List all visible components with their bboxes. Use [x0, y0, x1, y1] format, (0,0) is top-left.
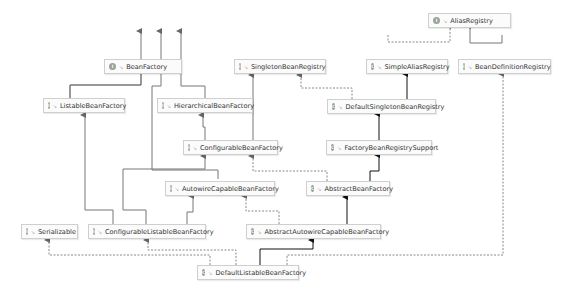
node-defaultlistablebeanfactory[interactable]: C ↘ DefaultListableBeanFactory: [197, 265, 299, 280]
interface-icon: I: [26, 228, 28, 235]
class-icon: C: [371, 63, 374, 70]
node-label: AbstractAutowireCapableBeanFactory: [265, 228, 390, 236]
edge-defaultlistable-abstractautowire: [260, 240, 313, 265]
node-label: HierarchicalBeanFactory: [174, 102, 254, 110]
node-aliasregistry[interactable]: I ↘ AliasRegistry: [428, 13, 511, 28]
class-diagram-canvas: I ↘ AliasRegistry I ↘ BeanFactory I ↘ Si…: [0, 0, 567, 302]
node-simplealiasregistry[interactable]: C ↘ SimpleAliasRegistry: [366, 59, 448, 74]
visibility-icon: ↘: [257, 229, 261, 235]
class-icon: C: [202, 269, 205, 276]
interface-icon: I: [239, 63, 241, 70]
node-beanfactory[interactable]: I ↘ BeanFactory: [104, 59, 182, 74]
node-label: BeanDefinitionRegistry: [475, 63, 551, 71]
node-listablebeanfactory[interactable]: I ↘ ListableBeanFactory: [43, 98, 125, 113]
visibility-icon: ↘: [443, 18, 447, 24]
node-label: SimpleAliasRegistry: [385, 63, 450, 71]
node-configurablelistablebeanfactory[interactable]: I ↘ ConfigurableListableBeanFactory: [88, 224, 206, 239]
node-label: AutowireCapableBeanFactory: [182, 185, 279, 193]
edge-defaultlistable-serializable: [49, 240, 210, 265]
interface-icon: I: [162, 102, 164, 109]
visibility-icon: ↘: [317, 186, 321, 192]
interface-icon: I: [188, 144, 190, 151]
node-label: ConfigurableBeanFactory: [200, 144, 283, 152]
edge-defaultsingleton-singleton: [301, 75, 352, 99]
visibility-icon: ↘: [244, 64, 248, 70]
visibility-icon: ↘: [193, 145, 197, 151]
node-defaultsingletonbeanregistry[interactable]: C ↘ DefaultSingletonBeanRegistry: [327, 99, 436, 114]
visibility-icon: ↘: [208, 270, 212, 276]
edge-beandefinitionregistry-aliasregistry: [470, 26, 502, 43]
node-label: DefaultSingletonBeanRegistry: [346, 103, 445, 111]
interface-icon: I: [433, 17, 440, 24]
visibility-icon: ↘: [338, 104, 342, 110]
node-label: Serializable: [38, 228, 76, 236]
node-label: SingletonBeanRegistry: [251, 63, 326, 71]
visibility-icon: ↘: [31, 229, 35, 235]
edge-abstractautowire-autowire: [246, 196, 279, 224]
node-label: FactoryBeanRegistrySupport: [345, 144, 439, 152]
class-icon: C: [251, 228, 254, 235]
visibility-icon: ↘: [119, 64, 123, 70]
visibility-icon: ↘: [53, 103, 57, 109]
class-icon: C: [311, 185, 314, 192]
interface-icon: I: [170, 185, 172, 192]
node-configurablebeanfactory[interactable]: I ↘ ConfigurableBeanFactory: [183, 140, 278, 155]
visibility-icon: ↘: [167, 103, 171, 109]
node-serializable[interactable]: I ↘ Serializable: [21, 224, 78, 239]
class-icon: C: [332, 103, 335, 110]
node-label: ConfigurableListableBeanFactory: [105, 228, 214, 236]
node-abstractautowirecapablebeanfactory[interactable]: C ↘ AbstractAutowireCapableBeanFactory: [246, 224, 381, 239]
node-abstractbeanfactory[interactable]: C ↘ AbstractBeanFactory: [306, 181, 390, 196]
interface-icon: I: [109, 63, 116, 70]
visibility-icon: ↘: [98, 229, 102, 235]
node-label: ListableBeanFactory: [60, 102, 127, 110]
interface-icon: I: [463, 63, 465, 70]
visibility-icon: ↘: [175, 186, 179, 192]
edge-configlistable-listable: [85, 115, 113, 224]
visibility-icon: ↘: [377, 64, 381, 70]
edge-configurable-hierarchical: [203, 115, 205, 140]
class-icon: C: [331, 144, 334, 151]
edge-abstractbf-factorybean: [370, 155, 379, 181]
edge-simplealiasregistry-aliasregistry: [388, 26, 450, 42]
node-beandefinitionregistry[interactable]: I ↘ BeanDefinitionRegistry: [458, 59, 551, 74]
inheritance-edges: [0, 0, 567, 302]
visibility-icon: ↘: [468, 64, 472, 70]
visibility-icon: ↘: [337, 145, 341, 151]
node-autowirecapablebeanfactory[interactable]: I ↘ AutowireCapableBeanFactory: [165, 181, 275, 196]
interface-icon: I: [48, 102, 50, 109]
node-label: DefaultListableBeanFactory: [216, 269, 307, 277]
node-hierarchicalbeanfactory[interactable]: I ↘ HierarchicalBeanFactory: [157, 98, 253, 113]
interface-icon: I: [93, 228, 95, 235]
edge-abstractbf-configurable: [253, 156, 327, 181]
node-singletonbeanregistry[interactable]: I ↘ SingletonBeanRegistry: [234, 59, 326, 74]
edge-defaultlistable-configlistable: [148, 240, 236, 265]
edge-configlistable-autowire: [187, 196, 193, 224]
edge-hierarchical-beanfactory: [181, 31, 205, 99]
node-label: AbstractBeanFactory: [325, 185, 394, 193]
node-label: AliasRegistry: [450, 17, 493, 25]
node-factorybeanregistrysupport[interactable]: C ↘ FactoryBeanRegistrySupport: [326, 140, 432, 155]
node-label: BeanFactory: [126, 63, 167, 71]
